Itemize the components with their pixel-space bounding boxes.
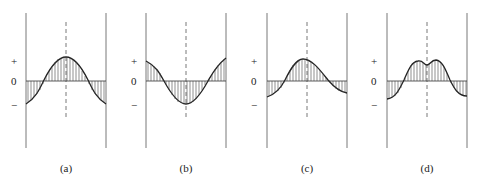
minus-mark: − bbox=[251, 99, 257, 111]
zero-mark: 0 bbox=[131, 75, 137, 87]
zero-mark: 0 bbox=[11, 75, 17, 87]
waveform-figure: + 0 − (a) + 0 − (b) + 0 − bbox=[0, 0, 482, 183]
plus-mark: + bbox=[371, 55, 377, 67]
zero-mark: 0 bbox=[371, 75, 377, 87]
panel-label: (d) bbox=[421, 162, 434, 175]
panel-label: (b) bbox=[180, 162, 193, 175]
panel-label: (c) bbox=[301, 162, 314, 175]
panel-d: + 0 − (d) bbox=[371, 13, 467, 175]
minus-mark: − bbox=[11, 99, 17, 111]
minus-mark: − bbox=[131, 99, 137, 111]
panel-c: + 0 − (c) bbox=[251, 13, 347, 175]
hatching bbox=[389, 60, 466, 98]
panel-label: (a) bbox=[60, 162, 73, 175]
plus-mark: + bbox=[11, 55, 17, 67]
panel-b: + 0 − (b) bbox=[131, 13, 226, 175]
minus-mark: − bbox=[371, 99, 377, 111]
plus-mark: + bbox=[251, 55, 257, 67]
panel-a: + 0 − (a) bbox=[11, 13, 106, 175]
zero-mark: 0 bbox=[251, 75, 257, 87]
plus-mark: + bbox=[131, 55, 137, 67]
